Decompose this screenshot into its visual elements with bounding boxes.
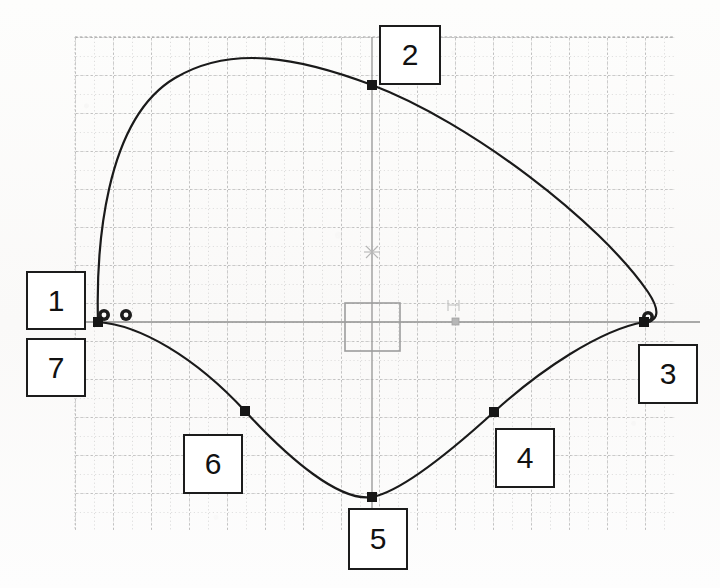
- label-box-2[interactable]: 2: [379, 25, 441, 85]
- control-point-2[interactable]: [367, 80, 377, 90]
- label-box-3[interactable]: 3: [638, 344, 698, 404]
- ring-marker-hole-2: [124, 313, 129, 318]
- label-box-text: 7: [48, 353, 65, 383]
- label-box-text: 2: [402, 40, 419, 70]
- control-point-3[interactable]: [639, 317, 649, 327]
- label-box-7[interactable]: 7: [26, 338, 86, 397]
- ring-marker-hole-1: [102, 313, 107, 318]
- label-box-text: 4: [517, 443, 534, 473]
- label-box-text: 6: [205, 449, 222, 479]
- origin-asterisk-icon: [364, 244, 380, 260]
- label-box-text: 3: [660, 359, 677, 389]
- axis-handle[interactable]: [452, 318, 459, 325]
- grid-layer: [75, 37, 675, 530]
- major-gridlines: [75, 37, 675, 530]
- control-point-4[interactable]: [489, 407, 499, 417]
- label-box-text: 1: [48, 286, 65, 316]
- control-point-7[interactable]: [93, 317, 103, 327]
- control-point-5[interactable]: [367, 492, 377, 502]
- label-box-6[interactable]: 6: [183, 434, 243, 494]
- label-box-5[interactable]: 5: [348, 508, 408, 570]
- spline-canvas[interactable]: [0, 0, 720, 588]
- label-box-text: 5: [370, 524, 387, 554]
- label-box-1[interactable]: 1: [26, 271, 86, 330]
- control-point-6[interactable]: [240, 406, 250, 416]
- label-box-4[interactable]: 4: [495, 428, 555, 488]
- diagram-page: 1234567: [0, 0, 720, 588]
